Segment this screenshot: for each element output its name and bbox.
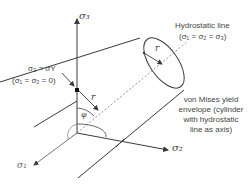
radius-label-upper: r <box>155 44 159 53</box>
envelope-label-3: with hydrostatic <box>176 115 246 125</box>
angle-arc-right <box>77 124 106 137</box>
yield-point <box>75 88 79 92</box>
cylinder-lower-line <box>78 90 184 178</box>
radius-upper <box>144 53 162 64</box>
sigma1-label: σ₁ <box>17 161 27 170</box>
yield-point-label-2: (σ₁ = σ₂ = 0) <box>12 77 56 85</box>
hydrostatic-label-1: Hydrostatic line <box>175 22 230 30</box>
envelope-label-2: envelope (cylinder <box>176 105 246 115</box>
envelope-label: von Mises yield envelope (cylinder with … <box>176 95 246 135</box>
yield-point-label-1: σ₃ = σY <box>28 65 56 73</box>
hydrostatic-label-2: (σ₁ = σ₂ = σ₃) <box>179 33 226 41</box>
envelope-label-1: von Mises yield <box>176 95 246 105</box>
angle-phi-label: φ <box>81 111 87 119</box>
envelope-label-4: line as axis) <box>176 125 246 135</box>
yield-label-arrow <box>62 73 74 86</box>
sigma2-label: σ₂ <box>172 143 183 153</box>
cylinder-left-line <box>34 101 77 127</box>
radius-label-lower: r <box>91 93 95 102</box>
sigma3-label: σ₃ <box>79 11 90 21</box>
